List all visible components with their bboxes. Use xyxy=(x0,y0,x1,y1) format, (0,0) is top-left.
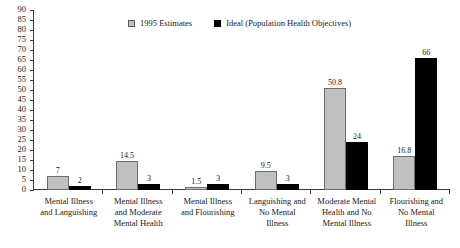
y-axis-tick-label: 50 xyxy=(18,85,27,94)
y-axis-tick-label: 70 xyxy=(18,45,27,54)
bar-group: 9.53 xyxy=(242,10,311,190)
bar-estimates[interactable]: 16.8 xyxy=(393,156,415,190)
x-axis-category-label-line: No Mental xyxy=(384,207,450,218)
bar-value-label: 3 xyxy=(147,175,151,183)
y-axis-tick-label: 40 xyxy=(18,105,27,114)
bar-estimates[interactable]: 14.5 xyxy=(116,161,138,190)
bar-value-label: 24 xyxy=(353,133,361,141)
x-axis-category-label-line: Health and No xyxy=(314,207,380,218)
x-axis-group-separator xyxy=(241,190,242,194)
bar-groups: 7214.531.539.5350.82416.866 xyxy=(34,10,450,190)
bar-value-label: 66 xyxy=(422,49,430,57)
bar-value-label: 3 xyxy=(286,175,290,183)
y-axis-tick-label: 0 xyxy=(22,185,26,194)
x-axis-category-label: Flourishing andNo MentalIllness xyxy=(382,196,452,229)
bar-ideal[interactable]: 3 xyxy=(277,184,299,190)
x-axis-category-label-line: Flourishing and xyxy=(384,196,450,207)
y-axis-tick-label: 25 xyxy=(18,135,27,144)
bar-group: 50.824 xyxy=(311,10,380,190)
bar-value-label: 1.5 xyxy=(191,178,201,186)
x-axis-category-label-line: Illness xyxy=(245,218,311,229)
y-axis-tick-label: 15 xyxy=(18,155,27,164)
x-axis-category-label-line: Mental Illness xyxy=(314,218,380,229)
y-axis-tick-label: 65 xyxy=(18,55,27,64)
x-axis-group-separator xyxy=(449,190,450,194)
x-axis-category-label-line: Languishing and xyxy=(245,196,311,207)
bar-value-label: 7 xyxy=(56,167,60,175)
bar-value-label: 2 xyxy=(78,177,82,185)
bar-estimates[interactable]: 50.8 xyxy=(324,88,346,190)
x-axis-group-separator xyxy=(172,190,173,194)
x-axis-category-label-line: Mental Illness xyxy=(175,196,241,207)
x-axis-category-label: Mental Illnessand Flourishing xyxy=(173,196,243,229)
y-axis-tick-label: 90 xyxy=(18,5,27,14)
y-axis-tick-label: 80 xyxy=(18,25,27,34)
y-axis-tick-label: 55 xyxy=(18,75,27,84)
x-axis-group-separator xyxy=(102,190,103,194)
x-axis-category-label-line: Illness xyxy=(384,218,450,229)
x-axis-category-label-line: No Mental xyxy=(245,207,311,218)
bar-value-label: 14.5 xyxy=(120,152,134,160)
bar-group: 1.53 xyxy=(173,10,242,190)
x-axis-category-label-line: and Flourishing xyxy=(175,207,241,218)
bar-ideal[interactable]: 66 xyxy=(415,58,437,190)
bar-value-label: 16.8 xyxy=(397,147,411,155)
bar-value-label: 50.8 xyxy=(328,79,342,87)
y-axis-tick-label: 20 xyxy=(18,145,27,154)
y-axis-tick-label: 75 xyxy=(18,35,27,44)
bar-value-label: 9.5 xyxy=(261,162,271,170)
bar-estimates[interactable]: 7 xyxy=(47,176,69,190)
x-axis-category-label: Moderate MentalHealth and NoMental Illne… xyxy=(312,196,382,229)
x-axis-category-label-line: and Moderate xyxy=(106,207,172,218)
bar-value-label: 3 xyxy=(216,175,220,183)
y-axis-tick-label: 35 xyxy=(18,115,27,124)
x-axis-labels: Mental Illnessand LanguishingMental Illn… xyxy=(34,196,451,229)
y-axis-tick-label: 30 xyxy=(18,125,27,134)
bar-ideal[interactable]: 2 xyxy=(69,186,91,190)
x-axis-category-label-line: and Languishing xyxy=(36,207,102,218)
x-axis-category-label: Languishing andNo MentalIllness xyxy=(243,196,313,229)
y-axis-tick-label: 85 xyxy=(18,15,27,24)
y-axis-tick-label: 10 xyxy=(18,165,27,174)
y-axis-tick: 0 xyxy=(30,190,34,191)
y-axis-tick-label: 5 xyxy=(22,175,26,184)
bar-ideal[interactable]: 3 xyxy=(138,184,160,190)
x-axis-category-label-line: Mental Health xyxy=(106,218,172,229)
bar-estimates[interactable]: 1.5 xyxy=(185,187,207,190)
x-axis-category-label-line: Mental Illness xyxy=(36,196,102,207)
bar-estimates[interactable]: 9.5 xyxy=(255,171,277,190)
bar-ideal[interactable]: 3 xyxy=(207,184,229,190)
bar-group: 14.53 xyxy=(103,10,172,190)
bar-group: 16.866 xyxy=(381,10,450,190)
x-axis-group-separator xyxy=(380,190,381,194)
x-axis-category-label-line: Mental Illness xyxy=(106,196,172,207)
bar-ideal[interactable]: 24 xyxy=(346,142,368,190)
x-axis-category-label-line: Moderate Mental xyxy=(314,196,380,207)
bar-group: 72 xyxy=(34,10,103,190)
x-axis-category-label: Mental Illnessand Languishing xyxy=(34,196,104,229)
x-axis-category-label: Mental Illnessand ModerateMental Health xyxy=(104,196,174,229)
y-axis-tick-label: 45 xyxy=(18,95,27,104)
x-axis-group-separator xyxy=(310,190,311,194)
plot-area: 908580757065605550454035302520151050 721… xyxy=(33,10,450,190)
y-axis-tick-label: 60 xyxy=(18,65,27,74)
bar-chart: 1995 Estimates Ideal (Population Health … xyxy=(0,0,460,248)
